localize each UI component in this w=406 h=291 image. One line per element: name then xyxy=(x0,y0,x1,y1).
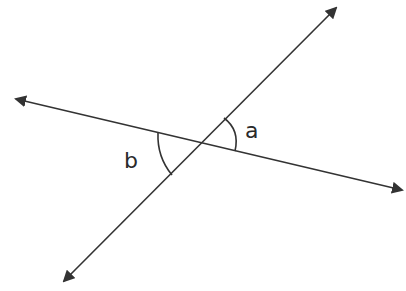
line-1 xyxy=(16,99,402,190)
angle-label-a: a xyxy=(245,118,258,143)
intersecting-lines-diagram: a b xyxy=(0,0,406,291)
angle-label-b: b xyxy=(124,148,138,173)
line-2 xyxy=(64,8,336,281)
diagram-canvas: a b xyxy=(0,0,406,291)
angle-arc-b xyxy=(158,133,172,175)
angle-arc-a xyxy=(224,118,236,151)
